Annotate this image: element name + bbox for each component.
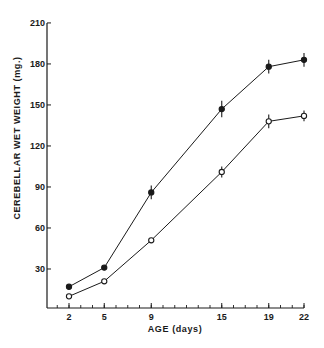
y-tick-label: 180 [30, 59, 45, 69]
open-circle-marker [301, 113, 306, 118]
open-circle-marker [266, 119, 271, 124]
x-tick-label: 2 [66, 312, 71, 322]
filled-circle-marker [102, 265, 107, 270]
series-line [69, 60, 304, 287]
open-circle-marker [149, 238, 154, 243]
line-chart: 306090120150180210259151922 AGE (days) C… [0, 0, 324, 348]
filled-circle-marker [66, 284, 71, 289]
open-circle-marker [102, 279, 107, 284]
data-series [66, 53, 306, 299]
series-open-circles [66, 110, 306, 299]
y-tick-label: 150 [30, 100, 45, 110]
x-tick-label: 5 [102, 312, 107, 322]
series-filled-circles [66, 53, 306, 289]
filled-circle-marker [219, 106, 224, 111]
open-circle-marker [219, 169, 224, 174]
y-tick-label: 210 [30, 18, 45, 28]
y-tick-label: 60 [35, 223, 45, 233]
x-tick-label: 9 [149, 312, 154, 322]
open-circle-marker [66, 294, 71, 299]
x-tick-label: 19 [264, 312, 274, 322]
filled-circle-marker [266, 64, 271, 69]
y-tick-label: 30 [35, 264, 45, 274]
x-axis-label: AGE (days) [148, 324, 203, 334]
y-axis-label: CEREBELLAR WET WEIGHT (mg.) [12, 56, 22, 219]
y-tick-label: 90 [35, 182, 45, 192]
axes: 306090120150180210259151922 [30, 18, 309, 322]
filled-circle-marker [149, 190, 154, 195]
filled-circle-marker [301, 57, 306, 62]
y-tick-label: 120 [30, 141, 45, 151]
x-tick-label: 15 [217, 312, 227, 322]
x-tick-label: 22 [299, 312, 309, 322]
